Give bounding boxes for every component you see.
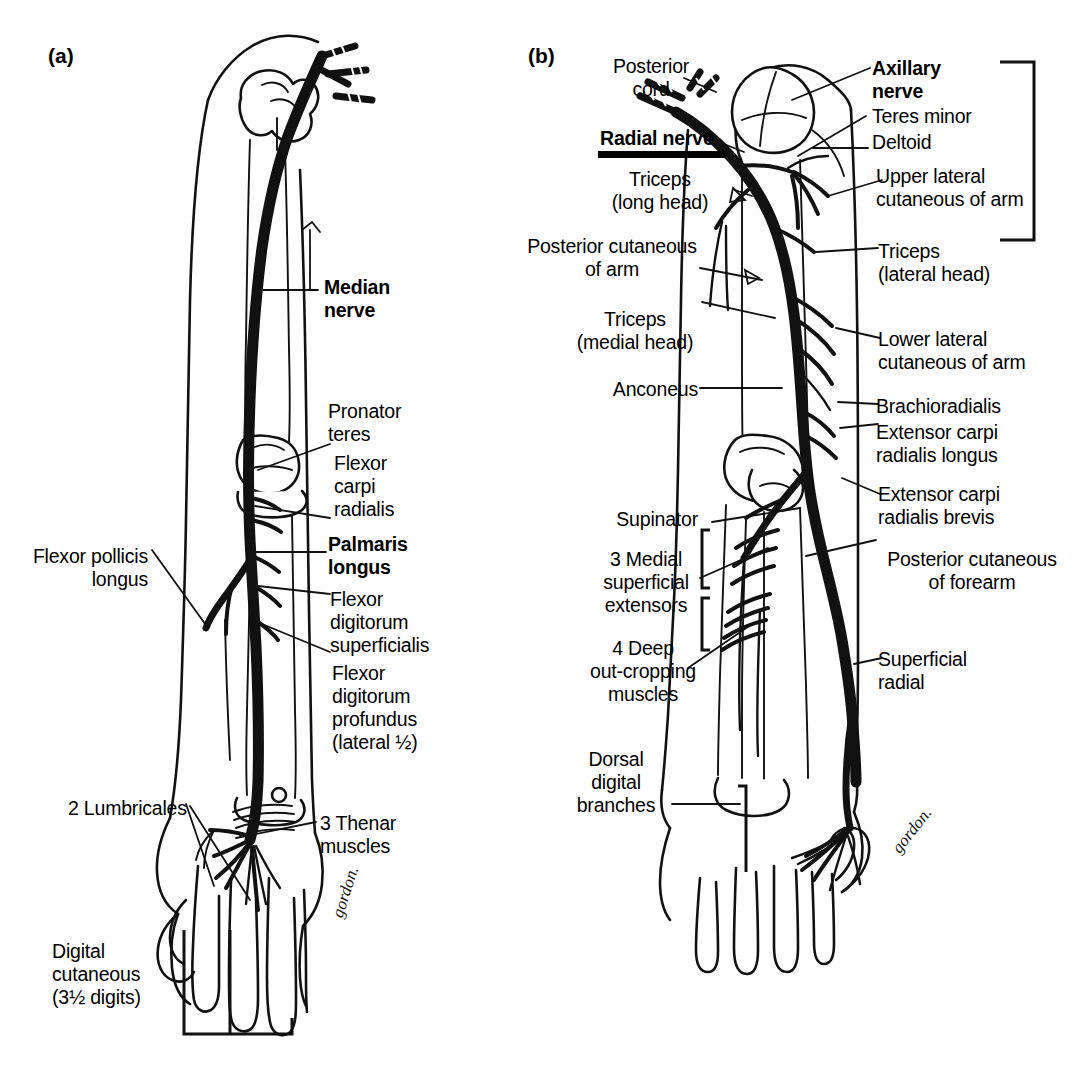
label-anconeus: Anconeus bbox=[560, 378, 698, 401]
panel-b-tag: (b) bbox=[528, 44, 555, 68]
label-flexor-digitorum-superficialis: Flexor digitorum superficialis bbox=[330, 588, 429, 657]
label-flexor-digitorum-profundus: Flexor digitorum profundus (lateral ½) bbox=[332, 662, 418, 754]
signature-a: gordon. bbox=[328, 864, 363, 920]
label-triceps-lateral-head: Triceps (lateral head) bbox=[878, 240, 990, 286]
panel-a-tag: (a) bbox=[48, 44, 74, 68]
label-posterior-cutaneous-of-forearm: Posterior cutaneous of forearm bbox=[872, 548, 1072, 594]
radial-nerve-underline-bar bbox=[598, 151, 726, 158]
figure-canvas: .out { fill:none; stroke:#111; stroke-wi… bbox=[0, 0, 1084, 1065]
label-pronator-teres: Pronator teres bbox=[328, 400, 401, 446]
label-four-deep-outcropping-muscles: 4 Deep out-cropping muscles bbox=[584, 637, 702, 706]
label-deltoid: Deltoid bbox=[872, 131, 931, 154]
label-flexor-pollicis-longus: Flexor pollicis longus bbox=[8, 545, 148, 591]
label-palmaris-longus: Palmaris longus bbox=[328, 533, 408, 579]
label-two-lumbricales: 2 Lumbricales bbox=[68, 797, 187, 820]
label-radial-nerve: Radial nerve bbox=[600, 127, 714, 150]
label-posterior-cord: Posterior cord bbox=[596, 55, 706, 101]
label-three-medial-superficial-extensors: 3 Medial superficial extensors bbox=[590, 548, 702, 617]
label-digital-cutaneous: Digital cutaneous (3½ digits) bbox=[52, 940, 141, 1009]
signature-b: gordon. bbox=[888, 803, 936, 857]
label-triceps-medial-head: Triceps (medial head) bbox=[570, 308, 700, 354]
label-upper-lateral-cutaneous-of-arm: Upper lateral cutaneous of arm bbox=[876, 165, 1023, 211]
label-extensor-carpi-radialis-longus: Extensor carpi radialis longus bbox=[876, 421, 998, 467]
label-triceps-long-head: Triceps (long head) bbox=[592, 168, 728, 214]
label-posterior-cutaneous-of-arm: Posterior cutaneous of arm bbox=[526, 235, 698, 281]
anatomical-line-art: .out { fill:none; stroke:#111; stroke-wi… bbox=[0, 0, 1084, 1065]
label-extensor-carpi-radialis-brevis: Extensor carpi radialis brevis bbox=[878, 483, 1000, 529]
label-superficial-radial: Superficial radial bbox=[878, 648, 967, 694]
label-dorsal-digital-branches: Dorsal digital branches bbox=[560, 748, 672, 817]
label-axillary-nerve: Axillary nerve bbox=[872, 57, 941, 103]
label-median-nerve: Median nerve bbox=[324, 276, 390, 322]
label-lower-lateral-cutaneous-of-arm: Lower lateral cutaneous of arm bbox=[878, 328, 1025, 374]
label-teres-minor: Teres minor bbox=[872, 105, 972, 128]
label-flexor-carpi-radialis: Flexor carpi radialis bbox=[334, 452, 394, 521]
label-supinator: Supinator bbox=[570, 508, 698, 531]
label-three-thenar-muscles: 3 Thenar muscles bbox=[320, 812, 396, 858]
label-brachioradialis: Brachioradialis bbox=[876, 395, 1001, 418]
